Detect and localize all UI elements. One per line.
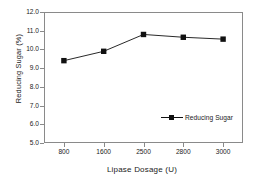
y-tick-mark: [40, 87, 44, 88]
chart-legend: Reducing Sugar: [161, 114, 233, 121]
x-tick-mark: [104, 143, 105, 147]
y-tick-label: 10.0: [13, 45, 39, 52]
y-tick-mark: [40, 124, 44, 125]
y-tick-mark: [40, 106, 44, 107]
x-tick-label: 3000: [203, 148, 243, 155]
plot-area: [44, 12, 243, 143]
x-tick-label: 1600: [84, 148, 124, 155]
legend-label: Reducing Sugar: [185, 114, 233, 121]
legend-line-swatch: [161, 114, 183, 121]
x-axis-title: Lipase Dosage (U): [38, 165, 246, 174]
x-tick-label: 800: [44, 148, 84, 155]
y-tick-label: 6.0: [13, 120, 39, 127]
y-tick-label: 8.0: [13, 83, 39, 90]
y-tick-label: 12.0: [13, 8, 39, 15]
chart-container: Reducing Sugar (%) 12.011.010.09.08.07.0…: [0, 0, 260, 183]
x-tick-label: 2800: [163, 148, 203, 155]
y-tick-mark: [40, 12, 44, 13]
y-tick-mark: [40, 31, 44, 32]
y-tick-mark: [40, 143, 44, 144]
legend-marker-icon: [169, 115, 174, 120]
x-tick-mark: [64, 143, 65, 147]
y-tick-label: 5.0: [13, 139, 39, 146]
y-tick-label: 7.0: [13, 102, 39, 109]
x-tick-label: 2500: [124, 148, 164, 155]
x-tick-mark: [223, 143, 224, 147]
y-tick-mark: [40, 68, 44, 69]
y-tick-label: 9.0: [13, 64, 39, 71]
y-tick-label: 11.0: [13, 27, 39, 34]
x-tick-mark: [183, 143, 184, 147]
x-tick-mark: [144, 143, 145, 147]
y-tick-mark: [40, 49, 44, 50]
